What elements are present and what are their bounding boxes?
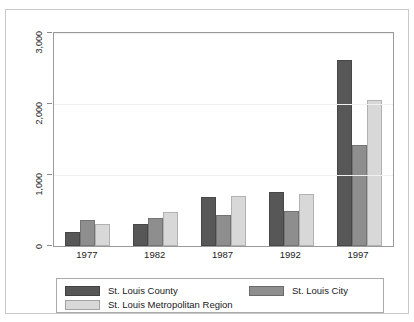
legend-swatch xyxy=(249,286,284,296)
bar-group xyxy=(133,33,178,246)
bar xyxy=(65,232,80,246)
chart-title xyxy=(0,0,414,1)
bars-container xyxy=(54,33,393,246)
gridline xyxy=(54,33,393,34)
x-axis-label: 1977 xyxy=(76,249,97,260)
x-axis-label: 1987 xyxy=(212,249,233,260)
x-axis-label: 1992 xyxy=(280,249,301,260)
y-axis-label: 0 xyxy=(34,244,44,249)
legend-swatch xyxy=(65,286,100,296)
legend-item[interactable]: St. Louis County xyxy=(65,284,178,297)
bar xyxy=(231,196,246,246)
plot-area xyxy=(53,32,394,247)
bar xyxy=(148,218,163,246)
legend-label: St. Louis City xyxy=(292,285,348,296)
bar xyxy=(284,211,299,247)
bar xyxy=(337,60,352,246)
legend-swatch xyxy=(65,300,100,310)
bar xyxy=(367,100,382,246)
bar xyxy=(201,197,216,246)
chart-figure: 01,0002,0003,000 19771982198719921997 St… xyxy=(0,0,414,322)
bar xyxy=(133,224,148,246)
legend-item[interactable]: St. Louis Metropolitan Region xyxy=(65,298,233,311)
legend-label: St. Louis Metropolitan Region xyxy=(108,299,233,310)
gridline xyxy=(54,175,393,176)
bar-group xyxy=(269,33,314,246)
bar xyxy=(80,220,95,246)
y-axis-label: 1,000 xyxy=(34,173,44,196)
bar-group xyxy=(337,33,382,246)
bar xyxy=(216,215,231,246)
x-axis-label: 1997 xyxy=(348,249,369,260)
bar xyxy=(269,192,284,246)
legend-item[interactable]: St. Louis City xyxy=(249,284,348,297)
y-axis-tick xyxy=(47,174,52,175)
y-axis: 01,0002,0003,000 xyxy=(0,0,53,260)
y-axis-tick xyxy=(47,103,52,104)
bar-group xyxy=(201,33,246,246)
y-axis-tick xyxy=(47,245,52,246)
bar xyxy=(299,194,314,246)
x-axis: 19771982198719921997 xyxy=(53,249,394,265)
bar-group xyxy=(65,33,110,246)
y-axis-tick xyxy=(47,32,52,33)
bar xyxy=(95,224,110,246)
bar xyxy=(352,145,367,246)
x-axis-label: 1982 xyxy=(144,249,165,260)
gridline xyxy=(54,104,393,105)
y-axis-label: 3,000 xyxy=(34,31,44,54)
y-axis-label: 2,000 xyxy=(34,102,44,125)
bar xyxy=(163,212,178,246)
legend-label: St. Louis County xyxy=(108,285,178,296)
chart-legend: St. Louis CountySt. Louis CitySt. Louis … xyxy=(56,278,384,313)
